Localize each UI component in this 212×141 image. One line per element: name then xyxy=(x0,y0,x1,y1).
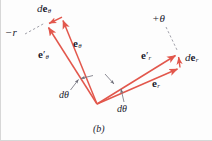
label-minus-r: −r xyxy=(5,27,17,38)
label-d-e-theta: deθ xyxy=(37,3,51,15)
vector-e-r xyxy=(97,69,178,104)
vector-e-r-prime xyxy=(97,56,176,105)
leader-d-theta-left xyxy=(71,80,79,91)
leader-plus-theta xyxy=(166,27,178,51)
vector-d-e-r xyxy=(179,57,180,68)
leader-d-theta-right-inner xyxy=(105,74,114,84)
leader-d-theta-right xyxy=(121,89,124,102)
figure-panel: deθ −r e′θ eθ +θ e′r der er dθ dθ (b) xyxy=(0,0,212,141)
label-e-theta: eθ xyxy=(73,38,82,50)
label-e-r-prime: e′r xyxy=(141,50,151,62)
leader-minus-r xyxy=(25,24,44,35)
label-d-e-r: der xyxy=(185,52,198,64)
label-d-theta-left: dθ xyxy=(59,90,69,100)
figure-caption: (b) xyxy=(93,124,105,134)
label-e-theta-prime: e′θ xyxy=(38,49,49,61)
label-e-r: er xyxy=(152,78,160,90)
label-d-theta-right: dθ xyxy=(117,104,127,114)
vector-d-e-theta xyxy=(49,17,62,23)
vector-diagram-svg xyxy=(0,0,212,141)
label-plus-theta: +θ xyxy=(152,13,165,24)
